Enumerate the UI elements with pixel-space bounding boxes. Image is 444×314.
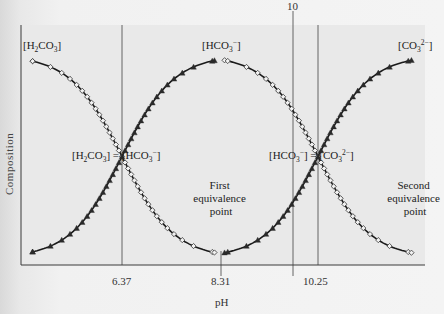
tick-label-10-25: 10.25 <box>303 275 328 287</box>
y-axis-label: Composition <box>3 133 15 195</box>
tick-label-8-31: 8.31 <box>211 275 230 287</box>
speciation-chart: Composition 6.37 8.31 10.25 10 pH [H2CO3… <box>0 0 444 314</box>
x-axis-label: pH <box>215 296 229 308</box>
tick-label-6-37: 6.37 <box>112 275 132 287</box>
top-marker-label-10: 10 <box>287 0 299 12</box>
